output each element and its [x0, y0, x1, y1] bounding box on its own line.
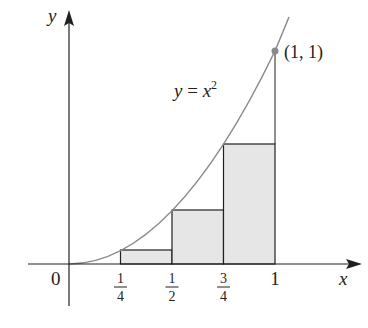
svg-text:2: 2	[169, 289, 176, 304]
tick-one-half: 1 2	[166, 271, 179, 304]
function-label: y = x2	[172, 78, 217, 101]
tick-one: 1	[270, 268, 280, 289]
svg-text:4: 4	[220, 289, 227, 304]
point-1-1	[272, 48, 279, 55]
point-label: (1, 1)	[284, 42, 323, 63]
tick-one-quarter: 1 4	[114, 271, 127, 304]
rectangle-3	[224, 144, 276, 264]
origin-label: 0	[51, 268, 61, 289]
x-axis-label: x	[338, 268, 348, 289]
tick-three-quarters: 3 4	[217, 271, 230, 304]
riemann-sum-diagram: y x 0 y = x2 (1, 1) 1 4 1 2 3 4 1	[0, 0, 368, 328]
svg-text:1: 1	[117, 271, 124, 286]
rectangle-1	[121, 250, 173, 264]
svg-text:1: 1	[169, 271, 176, 286]
y-axis	[64, 10, 74, 306]
approximating-rectangles	[121, 144, 276, 264]
svg-text:4: 4	[117, 289, 124, 304]
svg-text:3: 3	[220, 271, 227, 286]
rectangle-2	[172, 210, 224, 264]
y-axis-label: y	[46, 5, 57, 26]
